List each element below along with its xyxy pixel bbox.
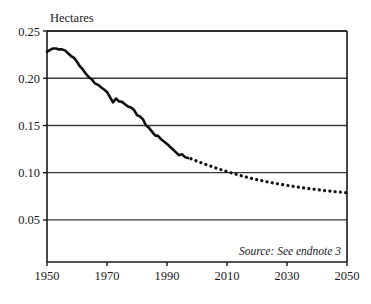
x-tick-label-1970: 1970 bbox=[95, 269, 120, 283]
x-tick-label-1990: 1990 bbox=[155, 269, 180, 283]
chart-background bbox=[0, 0, 371, 304]
y-tick-label-0.15: 0.15 bbox=[18, 119, 40, 133]
chart-container: 0.250.200.150.100.05 1950197019902010203… bbox=[0, 0, 371, 304]
y-axis-title: Hectares bbox=[50, 11, 94, 25]
y-tick-label-0.10: 0.10 bbox=[18, 166, 40, 180]
source-note: Source: See endnote 3 bbox=[239, 245, 341, 257]
x-tick-label-1950: 1950 bbox=[35, 269, 60, 283]
x-tick-label-2030: 2030 bbox=[275, 269, 300, 283]
y-tick-label-0.20: 0.20 bbox=[18, 72, 40, 86]
x-tick-label-2010: 2010 bbox=[215, 269, 240, 283]
y-tick-label-0.25: 0.25 bbox=[18, 25, 40, 39]
x-tick-label-2050: 2050 bbox=[335, 269, 360, 283]
y-tick-label-0.05: 0.05 bbox=[18, 213, 40, 227]
grainland-per-person-line-chart: 0.250.200.150.100.05 1950197019902010203… bbox=[0, 0, 371, 304]
